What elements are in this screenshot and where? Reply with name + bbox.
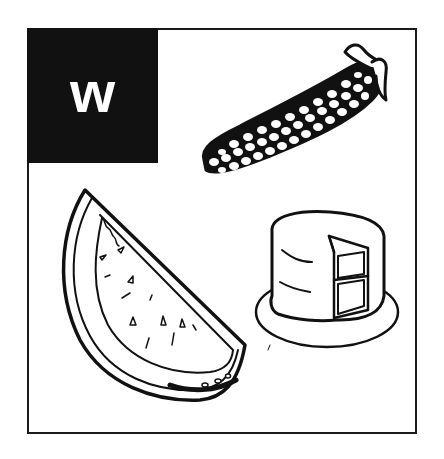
watermelon-slice-icon [64, 190, 245, 400]
layer-cake-icon [256, 212, 398, 350]
corn-icon [203, 45, 386, 173]
